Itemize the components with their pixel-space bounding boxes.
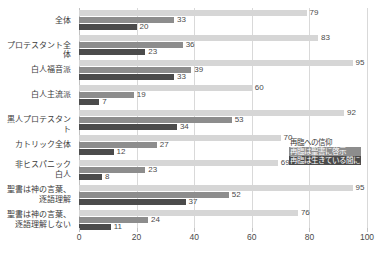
- bar[interactable]: [79, 85, 252, 91]
- legend-item-2[interactable]: 再臨は生きている間に: [289, 156, 361, 165]
- bar-row: 76: [79, 210, 367, 216]
- bar[interactable]: [79, 185, 353, 191]
- bar-row: 95: [79, 60, 367, 66]
- y-axis-label: 聖書は神の言葉、 逐語理解しない: [7, 210, 71, 229]
- x-tick-label-100: 100: [360, 232, 374, 242]
- bar-value-label: 20: [140, 23, 149, 31]
- x-tick-label-40: 40: [189, 232, 198, 242]
- bar-groups: 7933208336239539336019792533470271269238…: [79, 8, 367, 232]
- bar[interactable]: [79, 210, 298, 216]
- bar-value-label: 23: [148, 166, 157, 174]
- bar[interactable]: [79, 135, 281, 141]
- bar-value-label: 27: [160, 141, 169, 149]
- bar[interactable]: [79, 199, 186, 205]
- bar-row: 92: [79, 110, 367, 116]
- y-axis-label: 非ヒスパニック 白人: [15, 160, 71, 179]
- bar[interactable]: [79, 124, 177, 130]
- bar[interactable]: [79, 49, 145, 55]
- bar-row: 33: [79, 74, 367, 80]
- bar[interactable]: [79, 10, 307, 16]
- bar[interactable]: [79, 60, 353, 66]
- x-tick-label-80: 80: [305, 232, 314, 242]
- bar-row: 52: [79, 192, 367, 198]
- bar-row: 24: [79, 217, 367, 223]
- y-axis-label: プロテスタント全体: [0, 41, 71, 60]
- bar-row: 53: [79, 117, 367, 123]
- legend-item-1[interactable]: 再臨は聖書に啓示: [289, 147, 361, 156]
- bar-value-label: 76: [301, 209, 310, 217]
- bar-row: 8: [79, 174, 367, 180]
- bar[interactable]: [79, 110, 344, 116]
- chart-container: 全体プロテスタント全体白人福音派白人主流派黒人プロテスタントカトリック全体非ヒス…: [0, 0, 378, 257]
- bar-value-label: 37: [189, 198, 198, 206]
- bar[interactable]: [79, 224, 111, 230]
- y-axis-category-labels: 全体プロテスタント全体白人福音派白人主流派黒人プロテスタントカトリック全体非ヒス…: [0, 8, 75, 232]
- bar-row: 11: [79, 224, 367, 230]
- bar-value-label: 83: [321, 34, 330, 42]
- x-axis: 020406080100: [79, 232, 367, 248]
- bar-group: 955237: [79, 182, 367, 207]
- bar-value-label: 11: [114, 223, 122, 231]
- bar-row: 83: [79, 35, 367, 41]
- bar-group: 60197: [79, 83, 367, 108]
- bar-row: 7: [79, 99, 367, 105]
- bar-value-label: 33: [177, 73, 186, 81]
- y-axis-label: 白人主流派: [31, 90, 71, 100]
- bar-row: 23: [79, 49, 367, 55]
- bar[interactable]: [79, 42, 183, 48]
- bar[interactable]: [79, 74, 174, 80]
- bar-row: 95: [79, 185, 367, 191]
- bar-value-label: 19: [137, 91, 146, 99]
- bar-value-label: 79: [310, 9, 319, 17]
- bar-value-label: 53: [235, 116, 244, 124]
- bar-group: 833623: [79, 33, 367, 58]
- bar-row: 20: [79, 24, 367, 30]
- bar-value-label: 92: [347, 109, 356, 117]
- bar[interactable]: [79, 174, 102, 180]
- bar[interactable]: [79, 192, 229, 198]
- bar-value-label: 95: [356, 184, 365, 192]
- bar-value-label: 36: [186, 41, 195, 49]
- bar[interactable]: [79, 67, 191, 73]
- bar-group: 793320: [79, 8, 367, 33]
- bar-row: 60: [79, 85, 367, 91]
- legend-item-0[interactable]: 再臨への信仰: [289, 138, 361, 147]
- x-tick-label-60: 60: [247, 232, 256, 242]
- bar-group: 762411: [79, 207, 367, 232]
- bar-row: 19: [79, 92, 367, 98]
- bar-row: 34: [79, 124, 367, 130]
- bar-value-label: 52: [232, 191, 241, 199]
- bar[interactable]: [79, 17, 174, 23]
- x-tick-label-20: 20: [132, 232, 141, 242]
- bar-row: 79: [79, 10, 367, 16]
- bar-value-label: 23: [148, 48, 157, 56]
- bar-row: 37: [79, 199, 367, 205]
- bar-row: 36: [79, 42, 367, 48]
- bar-row: 33: [79, 17, 367, 23]
- bar-group: 953933: [79, 58, 367, 83]
- legend: 再臨への信仰再臨は聖書に啓示再臨は生きている間に: [289, 138, 361, 165]
- bar-value-label: 34: [180, 123, 189, 131]
- y-axis-label: 全体: [55, 16, 71, 26]
- bar[interactable]: [79, 117, 232, 123]
- y-axis-label: 聖書は神の言葉、 逐語理解: [7, 185, 71, 204]
- bar-value-label: 39: [194, 66, 203, 74]
- y-axis-label: 白人福音派: [31, 65, 71, 75]
- bar[interactable]: [79, 99, 99, 105]
- bar-value-label: 8: [105, 173, 109, 181]
- y-axis-label: 黒人プロテスタント: [0, 115, 71, 134]
- bar-group: 925334: [79, 108, 367, 133]
- bar[interactable]: [79, 149, 114, 155]
- bar[interactable]: [79, 35, 318, 41]
- bar-value-label: 24: [151, 216, 160, 224]
- bar-value-label: 60: [255, 84, 264, 92]
- bar-value-label: 7: [102, 98, 106, 106]
- bar[interactable]: [79, 24, 137, 30]
- gridline-100: [367, 8, 368, 232]
- bar[interactable]: [79, 160, 278, 166]
- bar[interactable]: [79, 167, 145, 173]
- bar-value-label: 33: [177, 16, 186, 24]
- bar-row: 39: [79, 67, 367, 73]
- bar-value-label: 95: [356, 59, 365, 67]
- plot-area: 7933208336239539336019792533470271269238…: [79, 8, 367, 232]
